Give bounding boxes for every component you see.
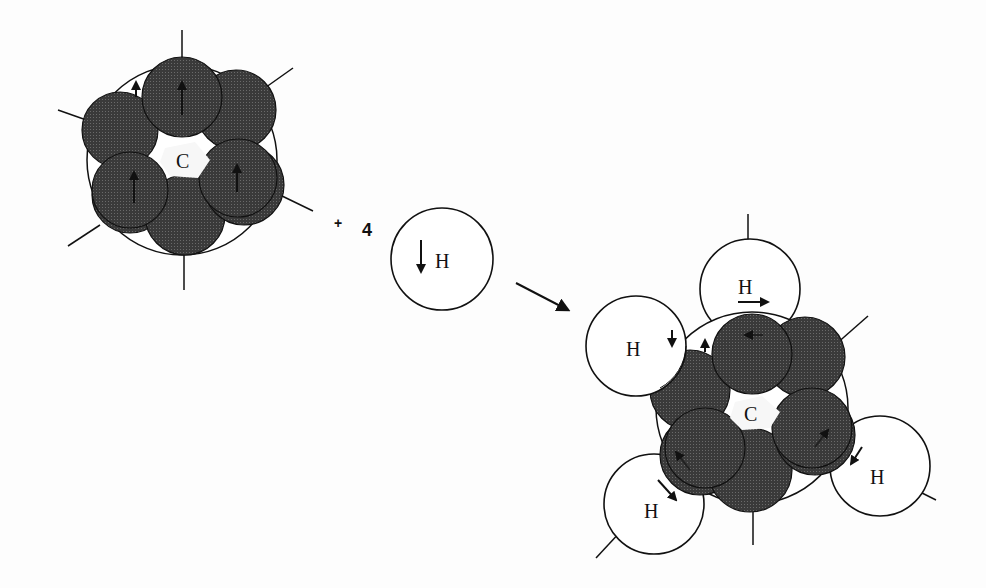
methane-formation-diagram: C + 4 H [0, 0, 986, 588]
methane-molecule-product: C H H H H [586, 214, 936, 558]
carbon-label: C [744, 403, 757, 425]
hydrogen-label-top: H [738, 276, 752, 298]
coefficient: 4 [362, 220, 372, 240]
hydrogen-label-lower-left: H [644, 500, 658, 522]
carbon-label: C [176, 150, 189, 172]
hydrogen-label-upper-left: H [626, 338, 640, 360]
reaction-arrow-icon [516, 283, 568, 310]
hydrogen-label: H [435, 250, 449, 272]
plus-sign: + [334, 215, 342, 231]
hydrogen-label-lower-right: H [870, 466, 884, 488]
hydrogen-atom-reactant: H [391, 208, 493, 310]
carbon-atom-reactant: C [58, 30, 313, 290]
